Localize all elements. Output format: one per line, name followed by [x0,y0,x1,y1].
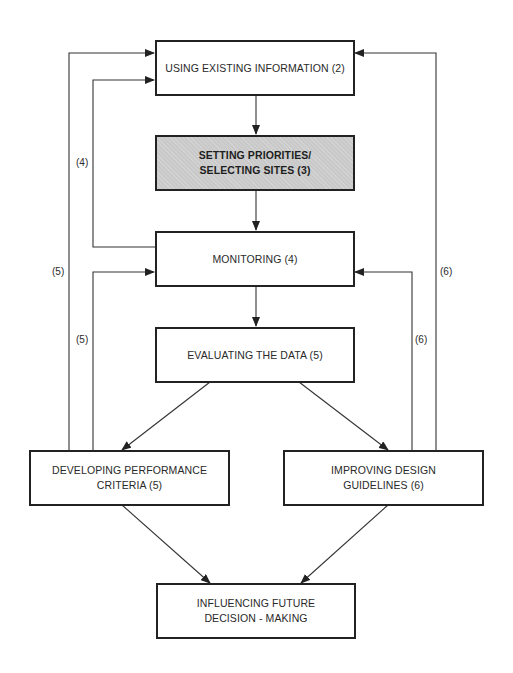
node-monitoring: MONITORING (4) [155,231,355,287]
arrow-improving-to-influencing [301,505,388,583]
node-label: USING EXISTING INFORMATION (2) [165,61,345,76]
node-label: EVALUATING THE DATA (5) [187,348,323,363]
node-label: DEVELOPING PERFORMANCE CRITERIA (5) [52,463,207,493]
node-improving-design-guidelines: IMPROVING DESIGN GUIDELINES (6) [283,450,484,506]
arrow-developing-to-influencing [122,505,210,583]
arrow-evaluating-to-developing [122,382,210,450]
feedback-developing-to-using [69,53,154,450]
feedback-improving-to-monitoring [355,272,412,450]
node-developing-performance-criteria: DEVELOPING PERFORMANCE CRITERIA (5) [29,450,230,506]
node-label: MONITORING (4) [212,252,297,267]
edge-label-feedback-5-outer: (5) [52,266,64,277]
node-influencing-future-decision-making: INFLUENCING FUTURE DECISION - MAKING [156,583,356,639]
arrow-evaluating-to-improving [299,382,388,450]
flowchart-canvas: USING EXISTING INFORMATION (2) SETTING P… [0,0,513,673]
node-label: INFLUENCING FUTURE DECISION - MAKING [197,596,315,626]
node-evaluating-the-data: EVALUATING THE DATA (5) [155,327,355,383]
edge-label-feedback-6-inner: (6) [415,334,427,345]
edge-label-feedback-4: (4) [76,157,88,168]
edge-label-feedback-5-inner: (5) [76,334,88,345]
feedback-monitoring-to-using [93,80,155,247]
edge-label-feedback-6-outer: (6) [440,266,452,277]
node-setting-priorities: SETTING PRIORITIES/ SELECTING SITES (3) [155,135,355,191]
feedback-improving-to-using [355,53,436,450]
node-using-existing-information: USING EXISTING INFORMATION (2) [155,40,355,96]
node-label: SETTING PRIORITIES/ SELECTING SITES (3) [199,148,312,178]
node-label: IMPROVING DESIGN GUIDELINES (6) [331,463,436,493]
feedback-developing-to-monitoring [93,272,154,450]
